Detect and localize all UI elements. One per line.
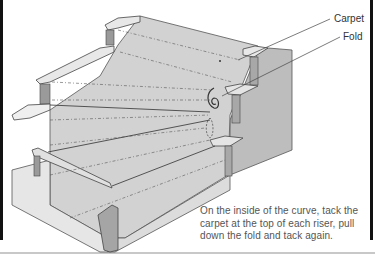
landing-left xyxy=(12,104,50,120)
inner-riser-2 xyxy=(232,95,240,123)
inner-riser-3 xyxy=(225,146,232,176)
riser-3 xyxy=(34,156,40,176)
riser-2 xyxy=(40,84,50,104)
carpet-label: Carpet xyxy=(334,13,364,24)
inner-riser-1 xyxy=(250,57,258,85)
riser-1 xyxy=(106,30,114,45)
carpet-tack-dot xyxy=(219,60,221,62)
caption-text: On the inside of the curve, tack the car… xyxy=(200,205,368,243)
fold-label: Fold xyxy=(343,31,362,42)
